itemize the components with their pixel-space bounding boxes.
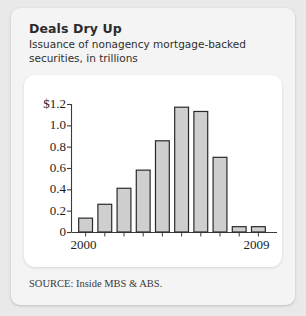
- y-tick-label-5: 1.0: [24, 118, 66, 131]
- bar-2002: [117, 188, 131, 232]
- plot-card: 00.20.40.60.81.0$1.220002009: [24, 75, 282, 267]
- bar-2004: [155, 141, 169, 232]
- source-note: SOURCE: Inside MBS & ABS.: [29, 278, 162, 289]
- bar-2008: [232, 227, 246, 232]
- y-tick-label-0: 0: [24, 225, 66, 238]
- chart-subtitle: Issuance of nonagency mortgage-backed se…: [29, 38, 277, 65]
- y-tick-label-3: 0.6: [24, 161, 66, 174]
- y-tick-label-2: 0.4: [24, 182, 66, 195]
- y-tick-label-1: 0.2: [24, 204, 66, 217]
- x-tick-label-2009: 2009: [243, 238, 269, 251]
- y-tick-label-4: 0.8: [24, 140, 66, 153]
- bar-2007: [213, 157, 227, 232]
- bar-2006: [194, 111, 208, 232]
- page-title: Deals Dry Up: [29, 21, 277, 36]
- bar-2003: [136, 170, 150, 232]
- bar-2001: [98, 204, 112, 232]
- bar-chart-plot: 00.20.40.60.81.0$1.220002009: [24, 75, 282, 267]
- figure-card: Deals Dry Up Issuance of nonagency mortg…: [11, 8, 295, 305]
- x-tick-label-2000: 2000: [71, 238, 97, 251]
- bar-2009: [251, 227, 265, 232]
- bar-2005: [175, 107, 189, 232]
- bar-2000: [79, 218, 93, 232]
- chart-header: Deals Dry Up Issuance of nonagency mortg…: [29, 21, 277, 65]
- y-tick-label-6: $1.2: [24, 97, 66, 110]
